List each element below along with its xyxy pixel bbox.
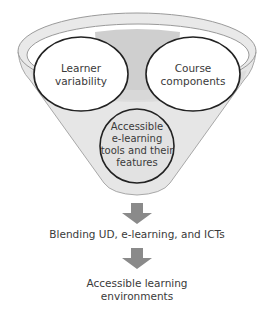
label-line: Blending UD, e-learning, and ICTs [0, 228, 274, 241]
label-line: Accessible [97, 121, 177, 133]
label-line: Accessible learning [0, 277, 274, 290]
label-line: tools and their [97, 145, 177, 157]
label-line: Learner [36, 62, 126, 75]
label-line: variability [36, 75, 126, 88]
label-line: e-learning [97, 133, 177, 145]
label-line: environments [0, 290, 274, 303]
accessible-tools-label: Accessible e-learning tools and their fe… [97, 121, 177, 169]
down-arrow-icon [122, 248, 152, 269]
learner-variability-label: Learner variability [36, 62, 126, 87]
blending-step-label: Blending UD, e-learning, and ICTs [0, 228, 274, 241]
down-arrow-icon [122, 203, 152, 224]
outcome-step-label: Accessible learning environments [0, 277, 274, 302]
label-line: components [148, 75, 238, 88]
label-line: features [97, 157, 177, 169]
course-components-label: Course components [148, 62, 238, 87]
label-line: Course [148, 62, 238, 75]
